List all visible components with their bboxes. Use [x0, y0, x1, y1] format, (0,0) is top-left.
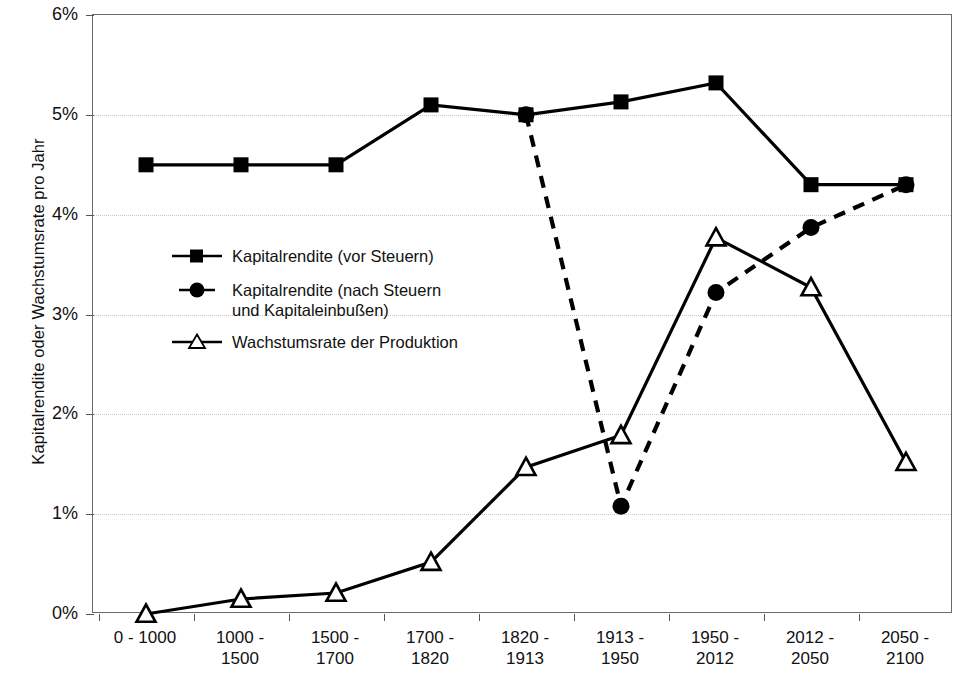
- x-label-line2: 2100: [886, 649, 924, 668]
- x-axis-tick-label: 1820 -1913: [471, 627, 579, 669]
- x-axis-tick-label: 1950 -2012: [661, 627, 769, 669]
- legend-item-wachstumsrate-der-produktion: Wachstumsrate der Produktion: [170, 332, 500, 352]
- legend-key-open-triangle-icon: [170, 332, 224, 352]
- marker-filled-circle: [708, 284, 725, 301]
- y-axis-tickmark: [86, 614, 94, 615]
- legend-key-filled-circle-icon: [170, 280, 224, 300]
- x-label-line1: 1500 -: [311, 628, 359, 647]
- x-label-line2: 1500: [221, 649, 259, 668]
- marker-filled-square: [234, 157, 249, 172]
- x-label-line1: 1950 -: [691, 628, 739, 647]
- legend-label: Wachstumsrate der Produktion: [232, 332, 500, 352]
- legend: Kapitalrendite (vor Steuern) Kapitalrend…: [170, 246, 500, 366]
- y-axis-tick-label: 0%: [18, 604, 78, 622]
- series-line-0: [146, 83, 906, 185]
- x-axis-tickmark: [479, 614, 480, 621]
- x-label-line1: 1000 -: [216, 628, 264, 647]
- marker-filled-square: [709, 75, 724, 90]
- x-axis-tick-label: 1500 -1700: [281, 627, 389, 669]
- legend-key-filled-square-icon: [170, 246, 224, 266]
- x-label-line1: 1820 -: [501, 628, 549, 647]
- marker-filled-square: [804, 177, 819, 192]
- marker-filled-square: [329, 157, 344, 172]
- x-label-line2: 1913: [506, 649, 544, 668]
- x-axis-tick-label: 1700 -1820: [376, 627, 484, 669]
- marker-filled-circle: [898, 176, 915, 193]
- marker-filled-square: [614, 94, 629, 109]
- x-axis-tickmark: [384, 614, 385, 621]
- marker-open-triangle: [612, 426, 631, 443]
- x-axis-tick-label: 2050 -2100: [851, 627, 958, 669]
- y-axis-tick-label: 3%: [18, 305, 78, 323]
- marker-filled-square: [424, 97, 439, 112]
- marker-open-triangle: [802, 278, 821, 295]
- legend-item-kapitalrendite-vor-steuern: Kapitalrendite (vor Steuern): [170, 246, 500, 266]
- marker-filled-circle: [518, 106, 535, 123]
- x-axis-tickmark: [669, 614, 670, 621]
- x-axis-tick-label: 2012 -2050: [756, 627, 864, 669]
- x-axis-tick-label: 1913 -1950: [566, 627, 674, 669]
- x-label-line2: 2012: [696, 649, 734, 668]
- x-axis-tickmark: [859, 614, 860, 621]
- legend-label-line1: Kapitalrendite (nach Steuern: [232, 280, 500, 300]
- x-axis-tickmark: [99, 614, 100, 621]
- y-axis-tick-label: 2%: [18, 404, 78, 422]
- x-axis-tickmark: [289, 614, 290, 621]
- x-label-line1: 1700 -: [406, 628, 454, 647]
- y-axis-tick-label: 6%: [18, 5, 78, 23]
- x-label-line1: 1913 -: [596, 628, 644, 647]
- x-axis-tick-label: 0 - 1000: [91, 627, 199, 648]
- marker-open-triangle: [897, 453, 916, 470]
- x-label-line2: 1950: [601, 649, 639, 668]
- marker-open-triangle: [707, 228, 726, 245]
- x-label-line1: 2050 -: [881, 628, 929, 647]
- x-label-line1: 2012 -: [786, 628, 834, 647]
- legend-item-kapitalrendite-nach-steuern: Kapitalrendite (nach Steuern und Kapital…: [170, 280, 500, 320]
- legend-label-line2: und Kapitaleinbußen): [232, 300, 500, 320]
- x-axis-tick-label: 1000 -1500: [186, 627, 294, 669]
- x-axis-tickmark: [574, 614, 575, 621]
- x-label-line2: 2050: [791, 649, 829, 668]
- y-axis-tick-label: 4%: [18, 205, 78, 223]
- y-axis-tick-label: 1%: [18, 504, 78, 522]
- x-label-line2: 1700: [316, 649, 354, 668]
- x-label-line1: 0 - 1000: [114, 628, 176, 647]
- marker-filled-square: [139, 157, 154, 172]
- chart-container: Kapitalrendite oder Wachstumsrate pro Ja…: [0, 0, 958, 674]
- marker-filled-circle: [613, 498, 630, 515]
- x-axis-tickmark: [764, 614, 765, 621]
- y-axis-tick-label: 5%: [18, 105, 78, 123]
- marker-filled-circle: [803, 219, 820, 236]
- x-label-line2: 1820: [411, 649, 449, 668]
- legend-label: Kapitalrendite (vor Steuern): [232, 246, 500, 266]
- x-axis-tickmark: [194, 614, 195, 621]
